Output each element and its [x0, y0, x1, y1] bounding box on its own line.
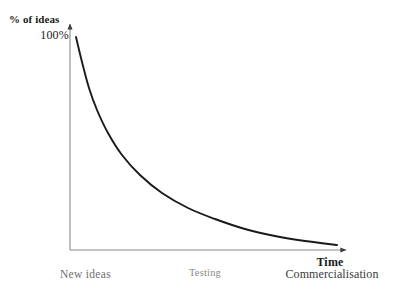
- y-axis-title: % of ideas: [9, 14, 60, 25]
- chart-canvas: [0, 0, 394, 297]
- x-axis-stage-label-new-ideas: New ideas: [60, 269, 111, 281]
- ideas-decay-curve: [76, 37, 337, 245]
- innovation-funnel-chart: % of ideas 100% Time New ideas Testing C…: [0, 0, 394, 297]
- x-axis-stage-label-commercialisation: Commercialisation: [276, 268, 388, 280]
- x-axis-stage-label-testing: Testing: [170, 268, 240, 279]
- y-axis-max-tick-label: 100%: [0, 29, 69, 41]
